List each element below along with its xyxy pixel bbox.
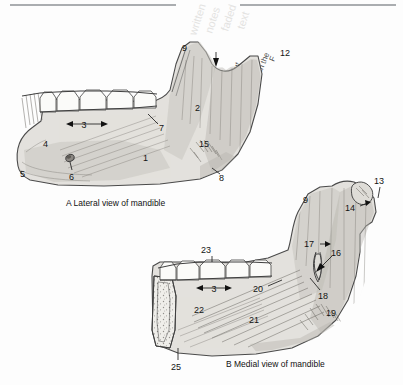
leader-13-b [378, 187, 380, 198]
label-4-a: 4 [43, 139, 48, 149]
label-1-a: 1 [143, 153, 148, 163]
label-13-b: 13 [374, 176, 384, 186]
label-9-b: 9 [303, 195, 308, 205]
svg-text:text: text [234, 10, 251, 31]
label-7-a: 7 [159, 123, 164, 133]
figure-a-lateral-mandible: 3 4 5 6 7 1 2 9 15 8 12 A Lateral view o… [17, 42, 290, 208]
mandible-illustration: written notes faded text ut ain in the F [0, 0, 403, 385]
label-5-a: 5 [20, 169, 25, 179]
figure-page: written notes faded text ut ain in the F [0, 0, 403, 385]
label-22-b: 22 [194, 305, 204, 315]
label-3-b: 3 [211, 284, 216, 294]
symphysis-cut-section [152, 276, 176, 348]
label-8-a: 8 [219, 173, 224, 183]
figure-b-medial-mandible: 23 3 9 13 14 16 17 18 19 20 21 22 25 [152, 176, 384, 372]
label-21-b: 21 [249, 315, 259, 325]
label-6-a: 6 [69, 172, 74, 182]
bleed-through-text: written notes faded text [186, 2, 251, 37]
label-2-a: 2 [195, 103, 200, 113]
label-16-b: 16 [331, 248, 341, 258]
svg-text:F: F [268, 55, 278, 63]
label-18-b: 18 [318, 291, 328, 301]
label-3-a: 3 [81, 120, 86, 130]
label-17-b: 17 [304, 239, 314, 249]
label-25-b: 25 [171, 362, 181, 372]
label-9-a: 9 [182, 43, 187, 53]
label-14-b: 14 [345, 203, 355, 213]
label-19-b: 19 [326, 308, 336, 318]
label-23-b: 23 [201, 245, 211, 255]
label-12-a: 12 [280, 48, 290, 58]
label-15-a: 15 [199, 139, 209, 149]
figure-a-caption: A Lateral view of mandible [66, 198, 165, 208]
label-20-b: 20 [253, 284, 263, 294]
figure-b-caption: B Medial view of mandible [226, 359, 325, 369]
